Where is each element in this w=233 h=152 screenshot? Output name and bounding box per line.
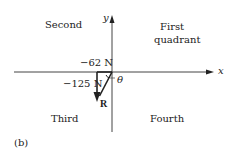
y-component-label: −125 N	[63, 79, 102, 89]
quadrant-second-label: Second	[45, 20, 82, 30]
quadrant-first-label-line2: quadrant	[154, 35, 200, 45]
y-axis-arrowhead	[110, 15, 115, 23]
angle-label: θ	[117, 75, 123, 85]
quadrant-third-label: Third	[51, 114, 79, 124]
x-component-label: −62 N	[80, 58, 113, 68]
y-axis-label: y	[103, 13, 109, 23]
figure-label: (b)	[14, 138, 28, 148]
resultant-label: R	[100, 99, 107, 109]
quadrant-fourth-label: Fourth	[150, 114, 184, 124]
x-axis-arrowhead	[206, 70, 214, 75]
x-axis-label: x	[218, 66, 224, 76]
quadrant-first-label-line1: First	[160, 22, 184, 32]
